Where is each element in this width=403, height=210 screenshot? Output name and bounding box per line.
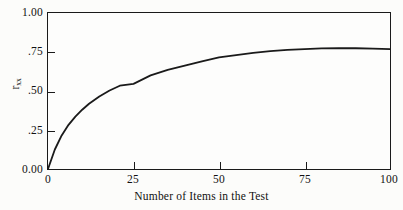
y-axis-title-symbol: r <box>9 86 21 90</box>
figure-canvas: 1.00 .75 .50 .25 0.00 rxx 0 25 50 75 100… <box>0 0 403 210</box>
y-tick-label-4: .25 <box>28 125 43 137</box>
x-axis-title: Number of Items in the Test <box>0 190 403 202</box>
x-tick-label-100: 100 <box>380 174 398 186</box>
y-tick-label-2: .75 <box>28 46 43 58</box>
reliability-curve <box>48 13 390 169</box>
x-tick-label-75: 75 <box>299 174 311 186</box>
y-tick-label-5: 0.00 <box>22 164 43 176</box>
x-tick-label-0: 0 <box>45 174 51 186</box>
x-tick-label-25: 25 <box>127 174 139 186</box>
y-axis-title-subscript: xx <box>14 78 23 85</box>
plot-area <box>47 12 391 170</box>
y-tick-label-3: .50 <box>28 85 43 97</box>
y-axis-title: rxx <box>9 71 21 97</box>
x-tick-label-50: 50 <box>213 174 225 186</box>
y-tick-label-1: 1.00 <box>22 7 43 19</box>
